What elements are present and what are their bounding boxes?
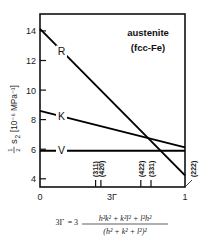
y-tick-label: 6: [31, 145, 36, 155]
y-tick-label: 12: [26, 56, 36, 66]
chart-figure: 14 12 10 8 6 4 0 1 3Γ 1 2 s 2 [10⁻⁶ MPa⁻…: [0, 0, 211, 248]
hkl-label-420: (420): [98, 161, 106, 177]
y-axis-symbol-subscript: 2: [14, 135, 21, 139]
plot-annotation: austenite (fcc-Fe): [127, 27, 169, 53]
x-tick-label: 1: [182, 192, 187, 202]
x-axis-title: 3Γ: [107, 192, 117, 202]
series-label-K: K: [58, 110, 65, 122]
y-tick-label: 8: [31, 115, 36, 125]
y-axis-ticks: [40, 31, 46, 179]
formula-numerator: h²k² + k²l² + l²h²: [99, 214, 152, 223]
annotation-line-1: austenite: [127, 27, 169, 38]
annotation-line-2: (fcc-Fe): [131, 42, 165, 53]
y-axis-units: [10⁻⁶ MPa⁻¹]: [10, 85, 19, 132]
formula-coefficient: 3: [74, 218, 78, 227]
hkl-tick-marks: [96, 180, 151, 187]
formula-caption: 3Γ = 3 h²k² + k²l² + l²h² (h² + k² + l²)…: [55, 214, 168, 236]
plot-frame: [40, 14, 185, 187]
y-axis-half-numerator: 1: [7, 148, 13, 152]
hkl-label-422: (422): [138, 161, 146, 177]
y-tick-labels: 14 12 10 8 6 4: [26, 26, 36, 184]
y-tick-label: 10: [26, 86, 36, 96]
y-axis-half-denominator: 2: [15, 148, 21, 152]
chart-svg: 14 12 10 8 6 4 0 1 3Γ 1 2 s 2 [10⁻⁶ MPa⁻…: [0, 0, 211, 248]
hkl-label-331: (331): [148, 161, 156, 177]
formula-denominator: (h² + k² + l²)²: [103, 227, 147, 236]
series-label-R: R: [58, 45, 66, 57]
formula-lhs: 3Γ: [55, 218, 64, 227]
hkl-labels: (311) (420) (422) (331) (222): [92, 161, 198, 177]
hkl-label-222: (222): [190, 161, 198, 177]
y-tick-label: 14: [26, 26, 36, 36]
series-label-V: V: [58, 144, 65, 156]
x-tick-label: 0: [37, 192, 42, 202]
y-axis-title: 1 2 s 2 [10⁻⁶ MPa⁻¹]: [7, 85, 22, 153]
formula-equals: =: [68, 218, 73, 227]
series-labels: R K V: [56, 45, 67, 157]
y-axis-symbol: s: [8, 139, 19, 144]
hkl-222-leader: [185, 180, 192, 187]
y-tick-label: 4: [31, 174, 36, 184]
